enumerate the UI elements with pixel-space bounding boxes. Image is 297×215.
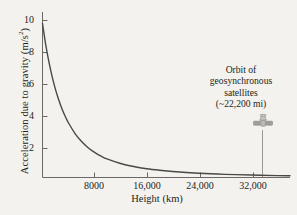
gravity-vs-height-chart: Acceleration due to gravity (m/s2) Heigh… (0, 0, 297, 215)
y-tick-label-8: 8 (8, 47, 34, 57)
x-axis-label: Height (km) (42, 194, 272, 205)
callout-line-1: Orbit of (188, 64, 294, 75)
y-tick-label-4: 4 (8, 111, 34, 121)
satellite-icon (248, 113, 278, 132)
geosynchronous-orbit-callout: Orbit of geosynchronous satellites (~22,… (188, 64, 294, 109)
y-tick-label-10: 10 (8, 15, 34, 25)
callout-line-4: (~22,200 mi) (188, 98, 294, 109)
x-tick-label-32000: 32,000 (223, 181, 283, 191)
y-axis-label: Acceleration due to gravity (m/s2) (18, 11, 30, 191)
x-tick-label-16000: 16,000 (117, 181, 177, 191)
y-tick-label-2: 2 (8, 143, 34, 153)
y-axis-label-tail: ) (19, 28, 30, 32)
y-tick-label-6: 6 (8, 79, 34, 89)
satellite-icon-svg (248, 113, 278, 132)
x-tick-label-8000: 8000 (64, 181, 124, 191)
x-tick-label-24000: 24,000 (170, 181, 230, 191)
y-axis-label-exponent: 2 (17, 31, 25, 35)
callout-line-2: geosynchronous (188, 75, 294, 86)
callout-line-3: satellites (188, 87, 294, 98)
